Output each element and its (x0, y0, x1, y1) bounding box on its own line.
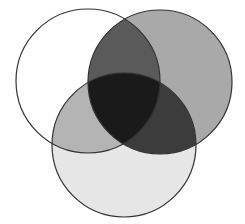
venn-diagram (0, 0, 245, 224)
